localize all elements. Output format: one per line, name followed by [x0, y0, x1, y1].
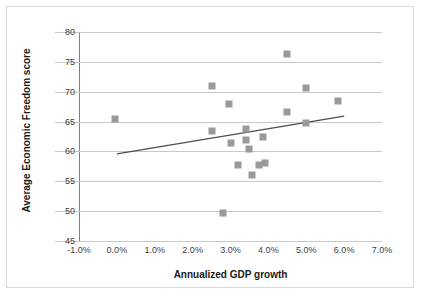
data-point: [284, 51, 291, 58]
data-point: [303, 85, 310, 92]
data-point: [246, 146, 253, 153]
y-axis-tick-label: 70: [65, 87, 75, 97]
data-point: [225, 101, 232, 108]
data-point: [335, 98, 342, 105]
data-point: [261, 160, 268, 167]
data-point: [259, 134, 266, 141]
data-point: [208, 128, 215, 135]
data-point: [303, 119, 310, 126]
x-axis-tick-label: -1.0%: [67, 245, 91, 255]
data-point: [242, 125, 249, 132]
x-axis-tick-label: 2.0%: [182, 245, 203, 255]
y-axis-tick-label: 65: [65, 117, 75, 127]
x-axis-tick-label: 5.0%: [296, 245, 317, 255]
y-axis-tick-label: 55: [65, 176, 75, 186]
y-axis-tick-label: 50: [65, 206, 75, 216]
trendline: [79, 32, 382, 241]
data-point: [208, 82, 215, 89]
data-point: [243, 137, 250, 144]
x-axis-tick-label: 0.0%: [107, 245, 128, 255]
data-point: [249, 172, 256, 179]
x-axis-title: Annualized GDP growth: [79, 269, 382, 280]
data-point: [235, 161, 242, 168]
data-point: [111, 115, 118, 122]
chart-frame: 4550556065707580 -1.0%0.0%1.0%2.0%3.0%4.…: [6, 6, 414, 288]
y-axis-tick-label: 80: [65, 27, 75, 37]
plot-area: 4550556065707580 -1.0%0.0%1.0%2.0%3.0%4.…: [79, 32, 382, 241]
x-axis-tick-label: 1.0%: [144, 245, 165, 255]
data-point: [284, 109, 291, 116]
x-axis-tick-label: 7.0%: [372, 245, 393, 255]
y-axis-tick-label: 60: [65, 146, 75, 156]
x-axis-tick-label: 3.0%: [220, 245, 241, 255]
y-axis-tick-label: 75: [65, 57, 75, 67]
x-axis-tick-label: 4.0%: [258, 245, 279, 255]
data-point: [227, 140, 234, 147]
data-point: [219, 209, 226, 216]
x-axis-tick-label: 6.0%: [334, 245, 355, 255]
gridline: [55, 241, 382, 242]
y-axis-title: Average Economic Freedom score: [21, 26, 32, 236]
